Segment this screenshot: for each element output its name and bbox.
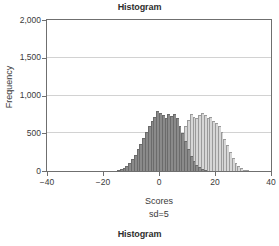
y-tick-mark [42,171,46,172]
y-tick-mark [42,20,46,21]
x-tick-mark [47,172,48,176]
y-tick-mark [42,133,46,134]
x-tick-label: −20 [83,177,123,187]
chart-title-top: Histogram [0,2,279,12]
x-tick-mark [215,172,216,176]
x-tick-mark [271,172,272,176]
y-tick-label: 500 [27,128,41,138]
y-tick-label: 2,000 [20,15,41,25]
x-tick-label: −40 [27,177,67,187]
histogram-bar [204,170,207,171]
plot-area [46,19,272,172]
x-tick-mark [103,172,104,176]
x-tick-label: 40 [251,177,279,187]
plot-inner [47,20,271,171]
y-tick-label: 1,500 [20,52,41,62]
x-tick-label: 20 [195,177,235,187]
x-axis-label: Scores [46,196,272,206]
y-axis-label: Frequency [4,37,14,137]
y-tick-mark [42,96,46,97]
chart-title-bottom: Histogram [0,229,279,239]
x-axis-annotation: sd=5 [46,209,272,219]
x-tick-mark [159,172,160,176]
histogram-figure: Histogram 05001,0001,5002,000 −40−200204… [0,0,279,246]
series-1-bars [47,20,271,171]
x-tick-label: 0 [139,177,179,187]
y-tick-mark [42,58,46,59]
y-tick-label: 1,000 [20,90,41,100]
y-tick-label: 0 [36,166,41,176]
